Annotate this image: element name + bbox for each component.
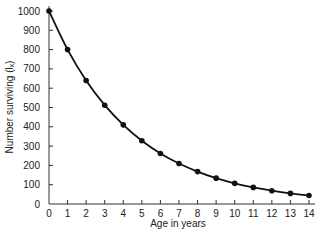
y-tick-label: 1000 <box>18 6 41 17</box>
x-axis-label: Age in years <box>150 218 206 229</box>
data-point-marker <box>139 138 145 144</box>
y-tick-label: 0 <box>34 199 40 210</box>
x-tick-label: 2 <box>83 208 89 219</box>
survivorship-chart: 01002003004005006007008009001000 0123456… <box>0 0 322 242</box>
x-tick-label: 5 <box>139 208 145 219</box>
x-tick-label: 3 <box>102 208 108 219</box>
y-tick-label: 200 <box>23 160 40 171</box>
y-axis: 01002003004005006007008009001000 <box>18 6 53 210</box>
x-tick-label: 12 <box>266 208 278 219</box>
y-tick-label: 600 <box>23 83 40 94</box>
data-point-marker <box>120 122 126 128</box>
x-tick-label: 4 <box>120 208 126 219</box>
data-point-marker <box>232 181 238 187</box>
data-point-marker <box>306 193 312 199</box>
y-tick-label: 500 <box>23 102 40 113</box>
x-tick-label: 14 <box>303 208 315 219</box>
data-point-marker <box>269 188 275 194</box>
x-tick-label: 11 <box>248 208 259 219</box>
data-point-marker <box>195 169 201 175</box>
series-line <box>49 11 309 196</box>
y-tick-label: 100 <box>23 179 40 190</box>
x-tick-label: 10 <box>229 208 241 219</box>
data-point-marker <box>176 161 182 167</box>
y-tick-label: 700 <box>23 63 40 74</box>
x-axis: 01234567891011121314 <box>46 200 315 219</box>
x-tick-label: 0 <box>46 208 52 219</box>
data-point-marker <box>46 8 52 14</box>
y-tick-label: 800 <box>23 44 40 55</box>
x-tick-label: 1 <box>65 208 71 219</box>
data-point-marker <box>288 191 294 197</box>
data-point-marker <box>83 78 89 84</box>
y-tick-label: 300 <box>23 141 40 152</box>
data-point-marker <box>213 175 219 181</box>
data-point-marker <box>65 47 71 53</box>
data-point-marker <box>158 151 164 157</box>
x-tick-label: 13 <box>285 208 297 219</box>
x-tick-label: 9 <box>213 208 219 219</box>
y-axis-label: Number surviving (lₓ) <box>4 61 15 154</box>
data-point-marker <box>250 185 256 191</box>
y-tick-label: 900 <box>23 25 40 36</box>
data-point-marker <box>102 102 108 108</box>
y-tick-label: 400 <box>23 121 40 132</box>
data-series <box>46 8 312 198</box>
